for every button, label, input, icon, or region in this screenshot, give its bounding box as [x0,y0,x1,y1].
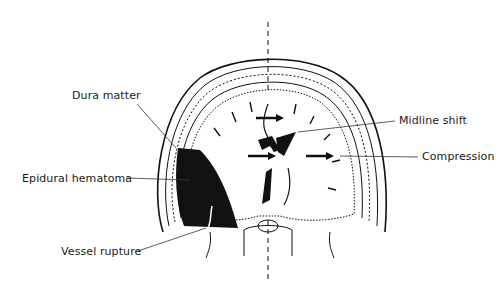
brain-diagram [0,0,503,286]
label-midline-shift: Midline shift [399,114,467,127]
label-compression: Compression [422,150,494,163]
label-epidural-hematoma: Epidural hematoma [22,172,132,185]
label-dura-matter: Dura matter [72,89,141,102]
label-vessel-rupture: Vessel rupture [61,245,141,258]
